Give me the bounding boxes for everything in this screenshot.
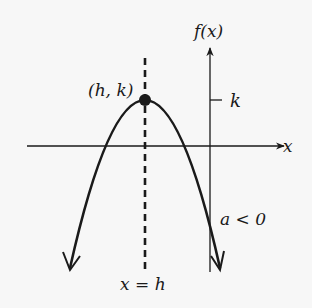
y-axis-label: f(x)	[192, 21, 223, 41]
diagram-canvas: f(x) x (h, k) k a < 0 x = h	[0, 0, 312, 308]
k-tick-label: k	[230, 90, 241, 111]
axis-of-symmetry-label: x = h	[120, 274, 166, 294]
parabola-diagram: f(x) x (h, k) k a < 0 x = h	[0, 0, 312, 308]
vertex-point	[139, 94, 151, 106]
leading-coefficient-label: a < 0	[220, 209, 266, 229]
vertex-label: (h, k)	[88, 80, 133, 100]
x-axis-label: x	[283, 136, 293, 156]
